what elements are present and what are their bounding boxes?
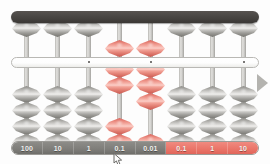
earth-bead-rod-2-2[interactable]: [43, 102, 72, 119]
earth-bead-rod-8-1[interactable]: [229, 86, 258, 103]
place-value-label-6[interactable]: 0.1: [166, 142, 197, 154]
place-value-label-1[interactable]: 100: [12, 142, 43, 154]
abacus-rod-2[interactable]: [42, 11, 73, 155]
abacus-reckoning-bar: [11, 57, 259, 68]
place-value-label-bar: 1001010.10.010.1110: [11, 141, 259, 155]
earth-bead-rod-2-3[interactable]: [43, 118, 72, 135]
place-value-label-7[interactable]: 1: [197, 142, 228, 154]
earth-bead-rod-1-2[interactable]: [12, 102, 41, 119]
earth-bead-rod-3-2[interactable]: [74, 102, 103, 119]
earth-bead-rod-6-2[interactable]: [167, 102, 196, 119]
next-arrow-icon[interactable]: [257, 74, 268, 92]
earth-bead-rod-4-2[interactable]: [105, 77, 134, 94]
earth-bead-rod-3-1[interactable]: [74, 86, 103, 103]
abacus-rods-container: [11, 11, 259, 155]
earth-bead-rod-3-3[interactable]: [74, 118, 103, 135]
earth-bead-rod-7-3[interactable]: [198, 118, 227, 135]
place-value-label-2[interactable]: 10: [43, 142, 74, 154]
abacus-rod-8[interactable]: [228, 11, 259, 155]
earth-bead-rod-1-1[interactable]: [12, 86, 41, 103]
abacus-rod-3[interactable]: [73, 11, 104, 155]
unit-dot-1: [88, 61, 90, 63]
heaven-bead-rod-4[interactable]: [105, 40, 134, 57]
mouse-cursor-icon: [113, 152, 124, 164]
abacus-rod-1[interactable]: [11, 11, 42, 155]
unit-dot-3: [243, 61, 245, 63]
earth-bead-rod-2-1[interactable]: [43, 86, 72, 103]
abacus-app: 1001010.10.010.1110: [0, 0, 270, 164]
place-value-label-3[interactable]: 1: [74, 142, 105, 154]
abacus-top-frame-bar: [11, 11, 259, 23]
earth-bead-rod-6-3[interactable]: [167, 118, 196, 135]
abacus-rod-5[interactable]: [135, 11, 166, 155]
heaven-bead-rod-5[interactable]: [136, 40, 165, 57]
earth-bead-rod-7-2[interactable]: [198, 102, 227, 119]
earth-bead-rod-7-1[interactable]: [198, 86, 227, 103]
earth-bead-rod-6-1[interactable]: [167, 86, 196, 103]
earth-bead-rod-5-3[interactable]: [136, 93, 165, 110]
earth-bead-rod-5-2[interactable]: [136, 77, 165, 94]
abacus-rod-7[interactable]: [197, 11, 228, 155]
place-value-label-8[interactable]: 10: [228, 142, 258, 154]
earth-bead-rod-4-3[interactable]: [105, 118, 134, 135]
earth-bead-rod-8-3[interactable]: [229, 118, 258, 135]
earth-bead-rod-1-3[interactable]: [12, 118, 41, 135]
unit-dot-2: [150, 61, 152, 63]
abacus-rod-6[interactable]: [166, 11, 197, 155]
abacus-rod-4[interactable]: [104, 11, 135, 155]
place-value-label-5[interactable]: 0.01: [136, 142, 167, 154]
earth-bead-rod-8-2[interactable]: [229, 102, 258, 119]
